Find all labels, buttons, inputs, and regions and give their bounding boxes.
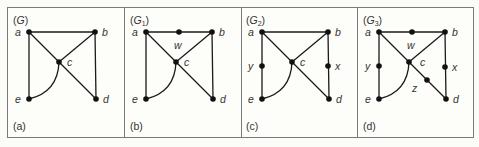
node-c bbox=[289, 59, 295, 65]
label-c: c bbox=[184, 56, 190, 68]
label-e: e bbox=[248, 93, 254, 105]
label-c: c bbox=[300, 56, 306, 68]
label-a: a bbox=[248, 26, 254, 38]
node-w bbox=[409, 29, 415, 35]
node-b bbox=[442, 29, 448, 35]
label-b: b bbox=[102, 26, 108, 38]
node-w bbox=[176, 29, 182, 35]
label-b: b bbox=[452, 26, 458, 38]
node-y bbox=[259, 63, 265, 69]
node-a bbox=[143, 29, 149, 35]
node-x bbox=[325, 63, 331, 69]
node-e bbox=[259, 96, 265, 102]
label-e: e bbox=[15, 93, 21, 105]
node-b bbox=[92, 29, 98, 35]
node-d bbox=[210, 96, 216, 102]
panel-title: (G) bbox=[13, 14, 28, 26]
node-z bbox=[424, 77, 430, 83]
node-d bbox=[326, 96, 332, 102]
panel-caption: (c) bbox=[246, 120, 258, 132]
node-e bbox=[26, 96, 32, 102]
node-c bbox=[406, 59, 412, 65]
label-y: y bbox=[364, 60, 371, 72]
node-y bbox=[376, 63, 382, 69]
panel-caption: (b) bbox=[130, 120, 143, 132]
label-c: c bbox=[67, 56, 73, 68]
node-e bbox=[376, 96, 382, 102]
node-d bbox=[443, 96, 449, 102]
node-b bbox=[209, 29, 215, 35]
label-x: x bbox=[451, 61, 458, 73]
node-c bbox=[173, 59, 179, 65]
label-x: x bbox=[334, 60, 341, 72]
node-a bbox=[376, 29, 382, 35]
label-c: c bbox=[420, 56, 426, 68]
node-b bbox=[325, 29, 331, 35]
node-e bbox=[143, 96, 149, 102]
label-a: a bbox=[132, 26, 138, 38]
label-z: z bbox=[411, 82, 418, 94]
label-y: y bbox=[247, 60, 254, 72]
figure-frame bbox=[8, 8, 474, 138]
node-a bbox=[259, 29, 265, 35]
label-e: e bbox=[132, 93, 138, 105]
node-c bbox=[56, 59, 62, 65]
node-a bbox=[26, 29, 32, 35]
node-d bbox=[93, 96, 99, 102]
label-e: e bbox=[365, 93, 371, 105]
label-a: a bbox=[365, 26, 371, 38]
node-x bbox=[442, 64, 448, 70]
label-b: b bbox=[219, 26, 225, 38]
label-b: b bbox=[335, 26, 341, 38]
graph-figure: (G) a b c d e (a) (G1) a w b c bbox=[0, 0, 479, 147]
panel-caption: (a) bbox=[13, 120, 26, 132]
label-a: a bbox=[15, 26, 21, 38]
panel-caption: (d) bbox=[363, 120, 376, 132]
